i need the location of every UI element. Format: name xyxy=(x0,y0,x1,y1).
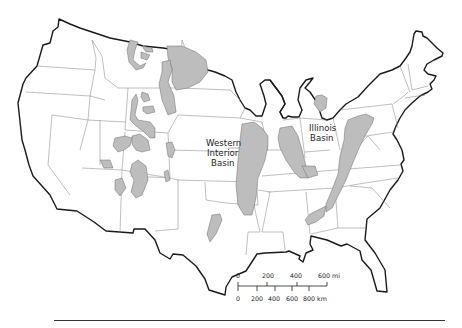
svg-text:Illinois: Illinois xyxy=(309,123,337,133)
svg-text:Basin: Basin xyxy=(310,133,333,143)
svg-text:400: 400 xyxy=(290,272,302,279)
svg-text:800 km: 800 km xyxy=(303,295,327,302)
svg-text:400: 400 xyxy=(268,295,280,302)
svg-text:600: 600 xyxy=(286,295,298,302)
scale-bar: 0 200 400 600 mi 0 200 400 600 800 km xyxy=(236,272,340,302)
svg-text:200: 200 xyxy=(251,295,263,302)
svg-text:600 mi: 600 mi xyxy=(318,272,340,279)
svg-text:Basin: Basin xyxy=(211,158,234,168)
bottom-rule xyxy=(54,320,445,321)
svg-text:Western: Western xyxy=(206,138,241,148)
svg-text:0: 0 xyxy=(236,272,240,279)
us-map: Western Interior Basin Illinois Basin 0 … xyxy=(0,0,462,328)
svg-text:Interior: Interior xyxy=(207,148,239,158)
svg-text:0: 0 xyxy=(236,295,240,302)
svg-text:200: 200 xyxy=(262,272,274,279)
label-illinois-basin: Illinois Basin xyxy=(309,123,337,143)
